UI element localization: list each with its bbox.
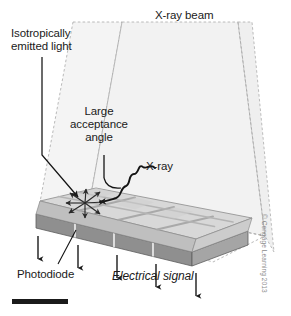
label-xray: X-ray <box>146 160 173 173</box>
label-electrical-signal: Electrical signal <box>112 270 194 283</box>
label-isotropically-emitted-light: Isotropically emitted light <box>11 27 72 53</box>
scale-bar <box>12 299 68 304</box>
label-xray-beam: X-ray beam <box>155 9 213 22</box>
copyright-credit: © Cengage Learning 2013 <box>261 214 268 293</box>
label-photodiode: Photodiode <box>17 268 74 281</box>
label-large-acceptance-angle: Large acceptance angle <box>62 105 136 144</box>
